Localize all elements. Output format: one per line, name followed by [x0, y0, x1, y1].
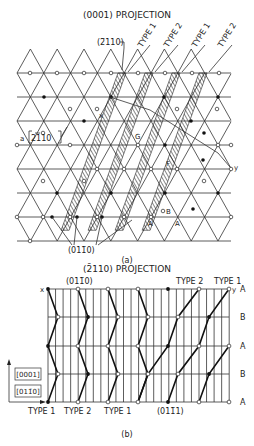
lattice-line: [71, 145, 84, 169]
lattice-line: [191, 145, 204, 169]
filled-atom: [202, 131, 206, 135]
lattice-line: [44, 73, 57, 97]
open-atom: [217, 71, 221, 75]
open-atom: [136, 143, 140, 147]
open-atom: [28, 239, 32, 243]
open-atom: [106, 400, 110, 404]
type-label: TYPE 2: [63, 407, 91, 416]
lattice-line: [205, 73, 218, 97]
lattice-line: [30, 73, 43, 97]
open-atom: [82, 179, 86, 183]
lattice-line: [218, 74, 231, 97]
point-B: B: [166, 208, 171, 216]
point-y: y: [234, 164, 238, 172]
lattice-line: [71, 73, 84, 97]
lattice-line: [205, 121, 218, 145]
stacking-labels: A B A B A: [240, 285, 246, 407]
lattice-line: [124, 49, 137, 73]
filled-atom: [55, 191, 59, 195]
open-atom: [56, 372, 60, 376]
filled-atom: [42, 95, 46, 99]
filled-atom: [189, 119, 193, 123]
lattice-line: [178, 217, 191, 241]
type-label: TYPE 1: [213, 277, 241, 286]
lattice-line: [44, 193, 57, 217]
lattice-line: [71, 121, 84, 145]
open-atom: [122, 215, 126, 219]
axis-arrows: [7, 359, 46, 404]
lattice-line: [17, 49, 30, 73]
lattice-line: [44, 169, 57, 193]
lattice-line: [97, 145, 110, 169]
lattice-line: [191, 193, 204, 217]
open-atom: [202, 179, 206, 183]
open-atom: [197, 287, 201, 291]
filled-atom: [191, 207, 195, 211]
lattice-line: [124, 145, 137, 169]
filled-atom: [207, 315, 211, 319]
open-atom: [215, 107, 219, 111]
open-atom: [216, 143, 220, 147]
lattice-line: [30, 193, 43, 217]
point-G: G: [135, 133, 140, 141]
open-atom: [41, 215, 45, 219]
lattice-line: [44, 49, 57, 73]
point-x-b: x: [40, 286, 44, 294]
open-atom: [56, 315, 60, 319]
open-atom: [68, 143, 72, 147]
open-atom: [68, 215, 72, 219]
open-atom: [197, 344, 201, 348]
figure-canvas: (0001) PROJECTION TYPE 1 TYPE 2 TYPE 1 T…: [0, 0, 254, 446]
lattice-line: [151, 73, 164, 97]
lattice-line: [84, 73, 97, 97]
open-atom: [176, 315, 180, 319]
open-atom: [163, 71, 167, 75]
open-atom: [175, 107, 179, 111]
filled-atom: [201, 158, 205, 162]
axis-label-horizontal: [011̄0]: [16, 388, 40, 396]
open-atom: [136, 287, 140, 291]
open-atom: [76, 400, 80, 404]
point-A: A: [148, 220, 153, 228]
plane-label-bottom: (011̄0): [68, 246, 95, 255]
plane-label-top: (2̄110): [97, 38, 124, 47]
filled-atom: [86, 372, 90, 376]
open-atom: [146, 315, 150, 319]
point-y-b: y: [232, 286, 236, 294]
type-labels-a: TYPE 1 TYPE 2 TYPE 1 TYPE 2: [128, 21, 238, 72]
filled-atom: [207, 372, 211, 376]
direction-a-symbol: a: [20, 135, 24, 143]
point-A: A: [175, 220, 180, 228]
type-label: TYPE 1: [103, 407, 131, 416]
lattice-line: [44, 145, 57, 169]
point-x: x: [99, 112, 103, 120]
lattice-line: [97, 73, 110, 97]
arrow-right-icon: [40, 400, 46, 404]
axis-label-vertical: [0001]: [16, 371, 40, 379]
open-atom: [82, 71, 86, 75]
open-atom: [41, 179, 45, 183]
open-atom: [55, 71, 59, 75]
lattice-line: [205, 169, 218, 193]
lattice-line: [30, 217, 43, 241]
lattice-line: [84, 49, 97, 73]
lattice-line: [57, 145, 70, 169]
lattice-line: [205, 193, 218, 217]
lattice-line: [218, 170, 231, 193]
open-atom: [229, 167, 233, 171]
open-atom: [106, 344, 110, 348]
lattice-line: [17, 217, 30, 241]
lattice-line: [30, 145, 43, 169]
stacking-label: B: [240, 313, 246, 322]
lattice-line: [71, 97, 84, 121]
filled-atom: [82, 119, 86, 123]
open-atom: [116, 372, 120, 376]
lattice-line: [30, 49, 43, 73]
filled-atom: [162, 95, 166, 99]
figure-b-title: (2̄110) PROJECTION: [83, 263, 171, 274]
plane-label-bottom-b: (011̄1): [157, 407, 184, 416]
lattice-line: [71, 49, 84, 73]
lattice-line: [218, 122, 231, 145]
open-atom: [136, 71, 140, 75]
open-atom: [95, 107, 99, 111]
